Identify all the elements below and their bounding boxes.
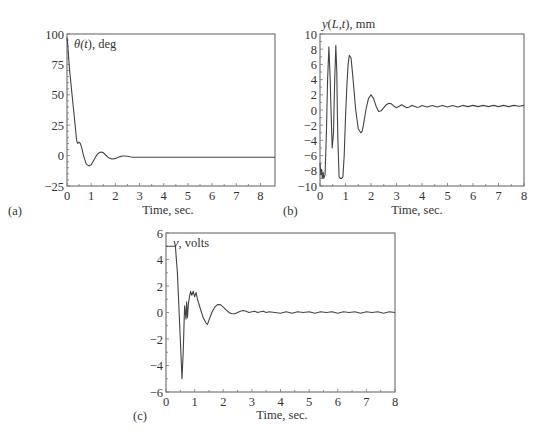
x-tick-label: 2 <box>368 189 374 203</box>
y-tick-label: −4 <box>150 359 164 373</box>
y-tick-label: 50 <box>52 88 65 102</box>
y-axis-label-part: ), deg <box>88 37 117 51</box>
y-tick-label: 6 <box>311 58 317 72</box>
y-tick-label: 0 <box>311 104 317 118</box>
panel-label: (b) <box>283 204 298 218</box>
chart-a: 012345678−250255075100θ(t), degTime, sec… <box>8 28 275 219</box>
y-tick-label: 0 <box>58 149 64 163</box>
series-line-voltage <box>166 246 395 378</box>
chart-b: 012345678−10−8−6−4−20246810y(L,t), mmTim… <box>283 17 527 218</box>
panel-label: (a) <box>8 204 22 218</box>
x-tick-label: 1 <box>192 395 198 409</box>
x-tick-label: 3 <box>249 395 255 409</box>
x-tick-label: 5 <box>444 189 450 203</box>
y-tick-label: −10 <box>297 180 317 194</box>
y-tick-label: 0 <box>157 306 163 320</box>
y-tick-label: 8 <box>311 43 317 57</box>
plot-frame <box>67 34 275 186</box>
x-tick-label: 6 <box>335 395 341 409</box>
x-tick-label: 0 <box>163 395 169 409</box>
y-axis-label-part: , volts <box>179 236 210 250</box>
x-tick-label: 7 <box>495 189 501 203</box>
y-tick-label: 4 <box>157 253 164 267</box>
series-line-tip-deflection <box>320 45 524 178</box>
x-tick-label: 4 <box>419 189 426 203</box>
x-tick-label: 7 <box>363 395 369 409</box>
x-tick-label: 0 <box>64 189 70 203</box>
y-tick-label: 25 <box>52 119 65 133</box>
x-tick-label: 1 <box>88 189 94 203</box>
y-tick-label: −2 <box>304 119 317 133</box>
y-tick-label: 6 <box>157 227 163 241</box>
y-axis-label-part: L <box>331 17 339 31</box>
x-tick-label: 5 <box>185 189 191 203</box>
x-tick-label: 4 <box>277 395 284 409</box>
y-tick-label: 75 <box>52 58 65 72</box>
y-tick-label: −6 <box>304 149 317 163</box>
x-tick-label: 1 <box>342 189 348 203</box>
y-tick-label: −25 <box>44 180 64 194</box>
y-axis-label-part: ), mm <box>345 17 375 31</box>
chart-c: 012345678−6−4−20246v, voltsTime, sec.(c) <box>133 227 398 424</box>
y-tick-label: 2 <box>157 280 163 294</box>
x-tick-label: 3 <box>393 189 399 203</box>
y-axis-label: θ(t), deg <box>74 37 117 51</box>
figure: 012345678−250255075100θ(t), degTime, sec… <box>0 0 548 443</box>
panel-label: (c) <box>133 409 147 423</box>
x-tick-label: 2 <box>220 395 226 409</box>
x-axis-label: Time, sec. <box>391 203 442 217</box>
y-tick-label: −2 <box>150 333 163 347</box>
x-tick-label: 8 <box>392 395 398 409</box>
x-axis-label: Time, sec. <box>142 203 193 217</box>
y-tick-label: −6 <box>150 386 163 400</box>
x-tick-label: 8 <box>521 189 527 203</box>
x-tick-label: 0 <box>317 189 323 203</box>
y-tick-label: −4 <box>304 134 318 148</box>
x-tick-label: 3 <box>136 189 142 203</box>
x-tick-label: 6 <box>470 189 476 203</box>
x-tick-label: 6 <box>209 189 215 203</box>
x-tick-label: 7 <box>233 189 239 203</box>
plot-frame <box>166 233 395 392</box>
x-axis-label: Time, sec. <box>256 408 307 422</box>
x-tick-label: 4 <box>161 189 168 203</box>
x-tick-label: 8 <box>257 189 263 203</box>
y-tick-label: 100 <box>45 28 64 42</box>
y-tick-label: −8 <box>304 164 317 178</box>
x-tick-label: 2 <box>112 189 118 203</box>
y-tick-label: 2 <box>311 88 317 102</box>
series-line-theta <box>67 38 275 166</box>
x-tick-label: 5 <box>306 395 312 409</box>
y-axis-label: v, volts <box>173 236 209 250</box>
y-axis-label: y(L,t), mm <box>320 17 375 31</box>
y-tick-label: 10 <box>305 28 318 42</box>
y-tick-label: 4 <box>311 73 318 87</box>
